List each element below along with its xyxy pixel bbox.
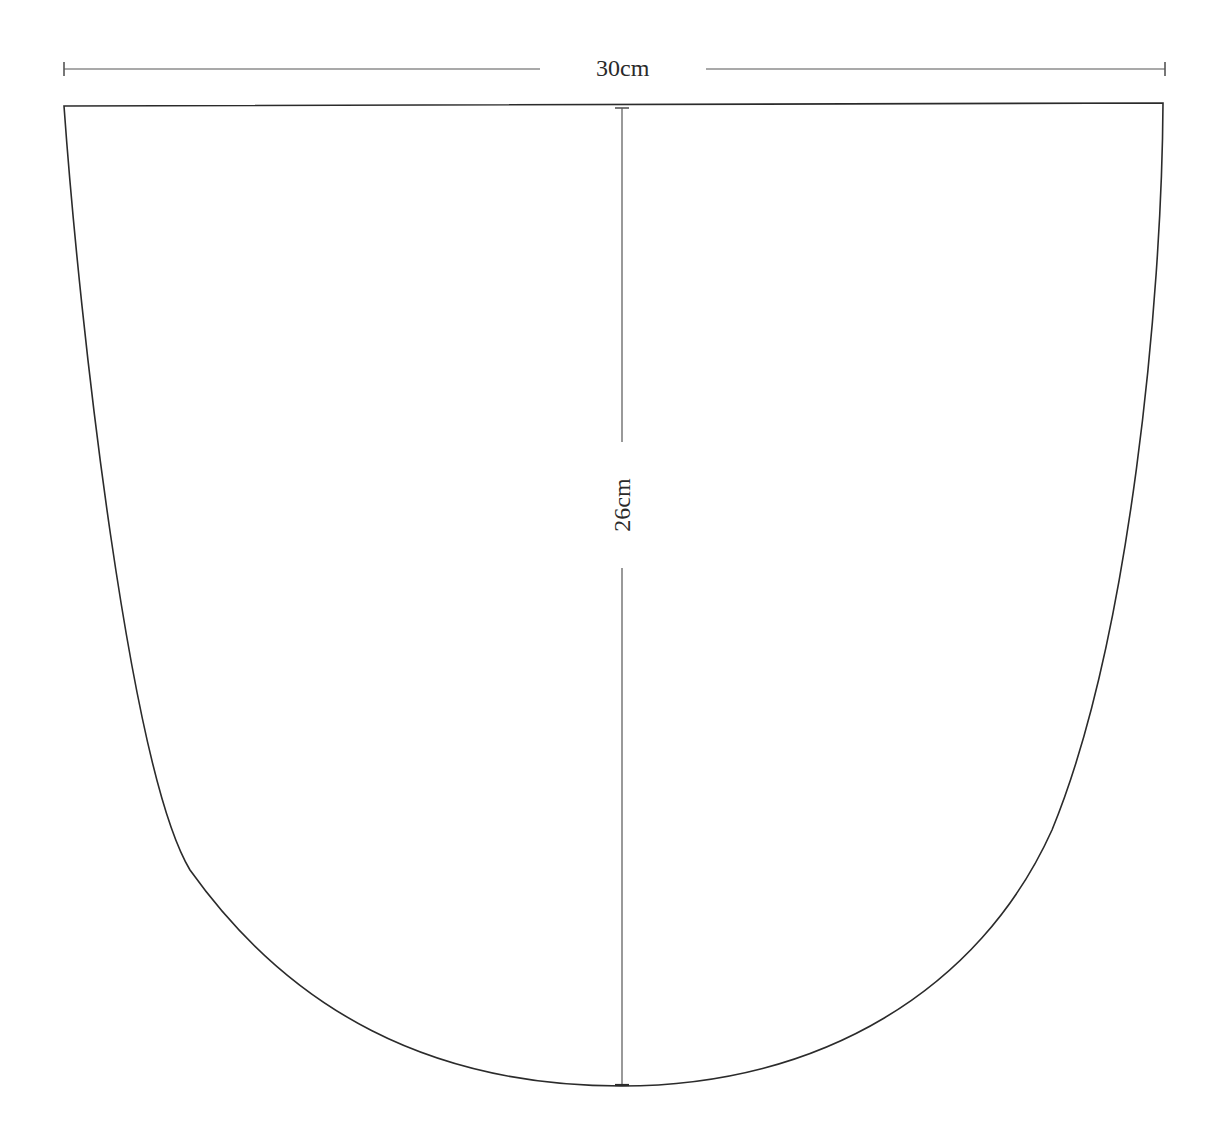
pattern-diagram: 30cm 26cm bbox=[0, 0, 1227, 1146]
height-dimension-line bbox=[615, 108, 629, 1086]
width-dimension-label: 30cm bbox=[596, 56, 649, 80]
pattern-outline bbox=[64, 103, 1163, 1086]
pattern-svg bbox=[0, 0, 1227, 1146]
height-dimension-label: 26cm bbox=[610, 478, 634, 531]
